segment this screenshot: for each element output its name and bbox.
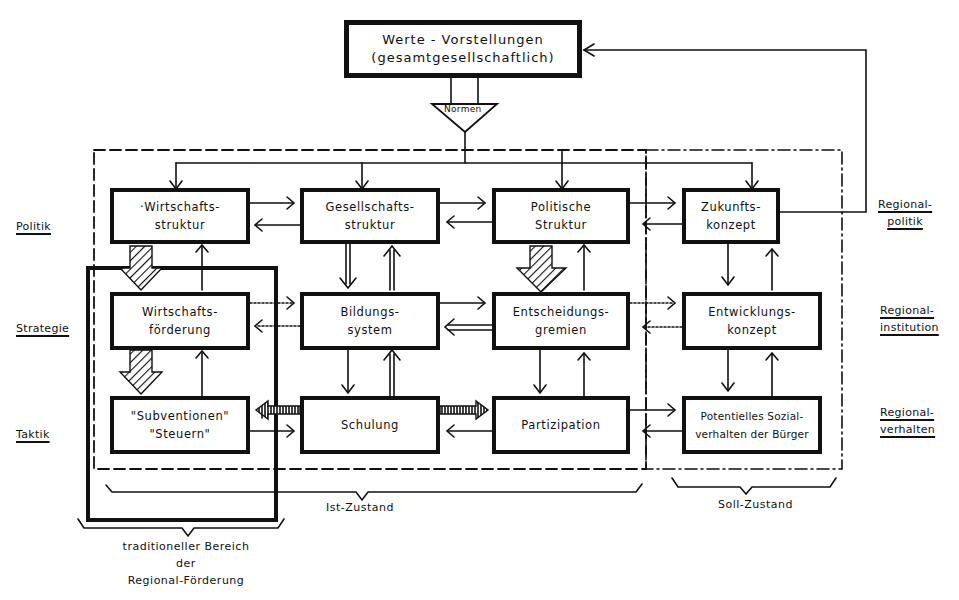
- box-line: Struktur: [535, 216, 587, 234]
- caption-line: der: [176, 557, 196, 570]
- ist-zustand-label: Ist-Zustand: [326, 499, 394, 516]
- right-label-regionalverhalten: Regional- verhalten: [880, 404, 935, 438]
- box-line: gremien: [535, 321, 587, 339]
- box-line: Entscheidungs-: [513, 303, 610, 321]
- box-line: förderung: [149, 321, 211, 339]
- label-line: politik: [887, 215, 923, 228]
- partizipation-box: Partizipation: [492, 396, 630, 454]
- box-line: Potentielles Sozial-: [701, 407, 804, 425]
- sozialverhalten-box: Potentielles Sozial- verhalten der Bürge…: [682, 396, 822, 454]
- entwicklungskonzept-box: Entwicklungs- konzept: [682, 292, 822, 350]
- soll-zustand-label: Soll-Zustand: [718, 496, 793, 513]
- row-label-politik: Politik: [16, 218, 51, 235]
- box-line: struktur: [155, 216, 206, 234]
- zukunftskonzept-box: Zukunfts- konzept: [682, 188, 780, 244]
- box-line: "Steuern": [149, 425, 210, 443]
- schulung-box: Schulung: [300, 396, 440, 454]
- box-line: Politische: [531, 198, 591, 216]
- right-label-regionalpolitik: Regional- politik: [878, 196, 932, 230]
- entscheidungsgremien-box: Entscheidungs- gremien: [492, 292, 630, 350]
- politische-struktur-box: Politische Struktur: [492, 188, 630, 244]
- box-line: Schulung: [341, 416, 399, 434]
- row-label-taktik: Taktik: [16, 426, 50, 443]
- box-line: Wirtschafts-: [142, 303, 218, 321]
- wirtschaftsfoerderung-box: Wirtschafts- förderung: [110, 292, 250, 350]
- box-line: Bildungs-: [341, 303, 400, 321]
- label-line: Regional-: [878, 198, 932, 211]
- gesellschaftsstruktur-box: Gesellschafts- struktur: [300, 188, 440, 244]
- box-line: Zukunfts-: [701, 198, 761, 216]
- top-box-line1: Werte - Vorstellungen: [382, 31, 544, 49]
- row-label-strategie: Strategie: [16, 320, 69, 337]
- label-line: Regional-: [880, 406, 934, 419]
- bildungssystem-box: Bildungs- system: [300, 292, 440, 350]
- subventionen-steuern-box: "Subventionen" "Steuern": [110, 396, 250, 454]
- normen-label: Normen: [444, 104, 482, 114]
- box-line: system: [347, 321, 392, 339]
- box-line: verhalten der Bürger: [695, 425, 809, 443]
- box-line: struktur: [345, 216, 396, 234]
- werte-vorstellungen-box: Werte - Vorstellungen (gesamtgesellschaf…: [344, 20, 582, 78]
- traditioneller-bereich-label: traditioneller Bereich der Regional-Förd…: [96, 538, 276, 589]
- top-box-line2: (gesamtgesellschaftlich): [371, 49, 554, 67]
- wirtschaftsstruktur-box: ·Wirtschafts- struktur: [110, 188, 250, 244]
- box-line: konzept: [706, 216, 756, 234]
- caption-line: traditioneller Bereich: [123, 540, 250, 553]
- caption-line: Regional-Förderung: [128, 574, 245, 587]
- box-line: "Subventionen": [131, 407, 229, 425]
- right-label-regionalinstitution: Regional- institution: [880, 302, 939, 336]
- box-line: ·Wirtschafts-: [140, 198, 220, 216]
- label-line: institution: [880, 321, 939, 334]
- box-line: Entwicklungs-: [708, 303, 796, 321]
- label-line: verhalten: [880, 423, 935, 436]
- box-line: Gesellschafts-: [326, 198, 415, 216]
- box-line: Partizipation: [521, 416, 600, 434]
- box-line: konzept: [727, 321, 777, 339]
- label-line: Regional-: [880, 304, 934, 317]
